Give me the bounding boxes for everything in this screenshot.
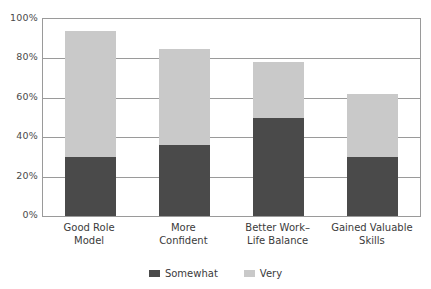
bar-segment-very[interactable] xyxy=(253,62,304,117)
x-axis-category-label: Good RoleModel xyxy=(42,221,136,247)
legend-swatch-icon xyxy=(149,270,160,277)
bar-segment-somewhat[interactable] xyxy=(159,145,210,216)
bar-group[interactable] xyxy=(347,19,398,216)
legend-label: Somewhat xyxy=(165,268,218,279)
x-axis-label-line: Life Balance xyxy=(231,234,325,247)
y-axis-tick-label: 0% xyxy=(2,210,38,220)
x-axis-label-line: Gained Valuable xyxy=(325,221,419,234)
legend-swatch-icon xyxy=(244,270,255,277)
x-axis-label-line: Better Work– xyxy=(231,221,325,234)
x-axis-category-label: Gained ValuableSkills xyxy=(325,221,419,247)
x-axis-category-label: Better Work–Life Balance xyxy=(231,221,325,247)
plot-area xyxy=(42,18,421,217)
stacked-bar-chart: 0%20%40%60%80%100% Good RoleModelMoreCon… xyxy=(0,0,431,289)
x-axis-label-line: More xyxy=(136,221,230,234)
y-axis-tick-label: 20% xyxy=(2,171,38,181)
y-axis-tick-label: 80% xyxy=(2,52,38,62)
y-axis-tick-label: 100% xyxy=(2,13,38,23)
legend-label: Very xyxy=(260,268,282,279)
y-axis: 0%20%40%60%80%100% xyxy=(0,0,38,289)
x-axis-label-line: Good Role xyxy=(42,221,136,234)
x-axis-label-line: Skills xyxy=(325,234,419,247)
chart-legend: SomewhatVery xyxy=(0,268,431,279)
x-axis-labels: Good RoleModelMoreConfidentBetter Work–L… xyxy=(42,221,421,257)
bar-segment-somewhat[interactable] xyxy=(65,157,116,216)
bar-group[interactable] xyxy=(65,19,116,216)
x-axis-label-line: Model xyxy=(42,234,136,247)
bar-group[interactable] xyxy=(253,19,304,216)
x-axis-label-line: Confident xyxy=(136,234,230,247)
bar-segment-very[interactable] xyxy=(159,49,210,146)
legend-item-somewhat[interactable]: Somewhat xyxy=(149,268,218,279)
bar-segment-somewhat[interactable] xyxy=(347,157,398,216)
y-axis-tick-label: 60% xyxy=(2,92,38,102)
y-axis-tick-label: 40% xyxy=(2,131,38,141)
bar-segment-somewhat[interactable] xyxy=(253,118,304,217)
legend-item-very[interactable]: Very xyxy=(244,268,282,279)
bar-segment-very[interactable] xyxy=(347,94,398,157)
bar-group[interactable] xyxy=(159,19,210,216)
x-axis-category-label: MoreConfident xyxy=(136,221,230,247)
bar-segment-very[interactable] xyxy=(65,31,116,157)
